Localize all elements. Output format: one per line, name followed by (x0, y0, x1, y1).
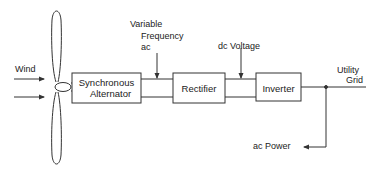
frequency-label: Frequency (141, 31, 184, 42)
grid-label: Grid (346, 75, 363, 86)
alternator-label-line1: Synchronous (72, 77, 141, 88)
alternator-label-line2: Alternator (76, 88, 145, 99)
rectifier-label: Rectifier (173, 83, 225, 94)
wind-label: Wind (15, 64, 36, 75)
dc-voltage-label: dc Voltage (218, 41, 260, 52)
grid-output-line (301, 86, 366, 148)
ac-power-label: ac Power (253, 141, 291, 152)
inverter-label: Inverter (256, 83, 301, 94)
wind-arrows-icon (14, 79, 44, 97)
wind-turbine-propeller-icon (52, 11, 72, 164)
ac-label: ac (141, 42, 151, 53)
variable-label: Variable (130, 19, 162, 30)
